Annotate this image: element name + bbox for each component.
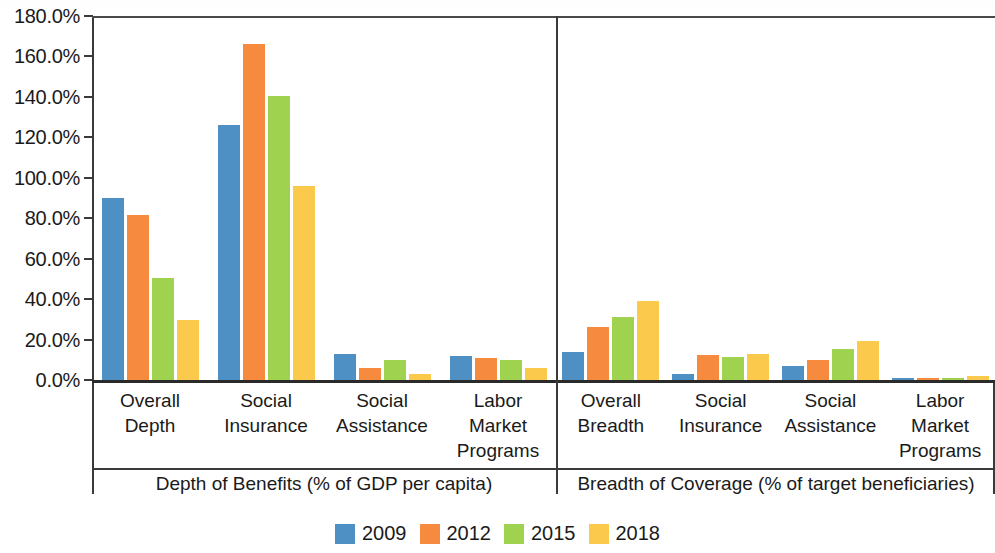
bar-2015-overall-breadth (612, 317, 634, 380)
bar-2018-labor-market-programs (967, 376, 989, 380)
legend-item-2015[interactable]: 2015 (504, 522, 576, 545)
y-axis-tick-label: 120.0% (14, 126, 80, 149)
bar-2018-social-assistance (857, 341, 879, 380)
bar-2009-labor-market-programs (450, 356, 472, 380)
bar-2015-social-insurance (268, 96, 290, 380)
legend-label: 2015 (531, 522, 576, 545)
bar-2012-labor-market-programs (475, 358, 497, 380)
legend-swatch-icon (420, 524, 440, 544)
y-axis-tick-label: 20.0% (25, 328, 80, 351)
legend-label: 2012 (447, 522, 492, 545)
bar-2012-labor-market-programs (917, 378, 939, 380)
bar-2009-overall-breadth (562, 352, 584, 380)
bar-2012-social-insurance (243, 44, 265, 380)
legend-swatch-icon (589, 524, 609, 544)
bar-2015-social-assistance (832, 349, 854, 380)
y-axis-tick-label: 0.0% (36, 369, 80, 392)
bar-2009-labor-market-programs (892, 378, 914, 380)
chart-legend: 2009201220152018 (0, 522, 995, 545)
bar-2012-overall-depth (127, 215, 149, 380)
category-label: Labor Market Programs (870, 388, 995, 463)
top-edge-artifact (0, 0, 995, 6)
bar-2009-social-insurance (218, 125, 240, 380)
plot-area (92, 16, 995, 380)
y-axis-labels: 0.0%20.0%40.0%60.0%80.0%100.0%120.0%140.… (0, 0, 84, 392)
y-axis-tick-label: 40.0% (25, 288, 80, 311)
legend-item-2018[interactable]: 2018 (589, 522, 661, 545)
legend-item-2009[interactable]: 2009 (335, 522, 407, 545)
legend-swatch-icon (335, 524, 355, 544)
legend-item-2012[interactable]: 2012 (420, 522, 492, 545)
x-axis-line (92, 380, 995, 383)
y-axis-tick-label: 60.0% (25, 247, 80, 270)
legend-label: 2018 (616, 522, 661, 545)
bar-2012-social-assistance (807, 360, 829, 380)
bar-2018-overall-depth (177, 320, 199, 380)
bar-2015-social-insurance (722, 357, 744, 380)
right-panel-label-separator (556, 468, 995, 470)
bar-2009-social-assistance (782, 366, 804, 380)
bar-2009-social-assistance (334, 354, 356, 380)
bar-2018-social-insurance (747, 354, 769, 380)
legend-label: 2009 (362, 522, 407, 545)
bar-2012-social-insurance (697, 355, 719, 380)
y-axis-tick-label: 180.0% (14, 5, 80, 28)
bar-2015-labor-market-programs (500, 360, 522, 380)
y-axis-tick-label: 80.0% (25, 207, 80, 230)
bar-2009-social-insurance (672, 374, 694, 380)
y-axis-tick-label: 100.0% (14, 166, 80, 189)
bar-2018-social-assistance (409, 374, 431, 380)
bar-2009-overall-depth (102, 198, 124, 380)
panel-title: Depth of Benefits (% of GDP per capita) (74, 473, 574, 495)
panel-title: Breadth of Coverage (% of target benefic… (526, 473, 995, 495)
chart-root: 0.0%20.0%40.0%60.0%80.0%100.0%120.0%140.… (0, 0, 995, 553)
left-panel-label-separator (92, 468, 557, 470)
legend-swatch-icon (504, 524, 524, 544)
bar-2018-labor-market-programs (525, 368, 547, 380)
y-axis-tick-label: 140.0% (14, 85, 80, 108)
bar-2015-labor-market-programs (942, 378, 964, 380)
bar-2018-overall-breadth (637, 301, 659, 380)
bar-2012-social-assistance (359, 368, 381, 380)
bar-2015-overall-depth (152, 278, 174, 380)
y-axis-tick-label: 160.0% (14, 45, 80, 68)
bar-2018-social-insurance (293, 186, 315, 380)
bar-2015-social-assistance (384, 360, 406, 380)
bar-2012-overall-breadth (587, 327, 609, 380)
